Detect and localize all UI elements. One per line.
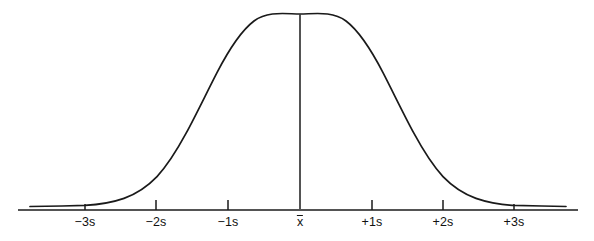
x-bar-glyph: x <box>297 215 303 229</box>
tick-label-mean-x-bar: x <box>297 215 303 229</box>
tick-label-plus-2s: +2s <box>432 216 453 229</box>
tick-label-plus-1s: +1s <box>361 216 382 229</box>
normal-curve-path <box>30 13 566 206</box>
bell-curve-canvas <box>0 0 594 241</box>
tick-label-minus-3s: −3s <box>74 216 95 229</box>
tick-label-plus-3s: +3s <box>503 216 524 229</box>
tick-label-minus-2s: −2s <box>145 216 166 229</box>
tick-label-minus-1s: −1s <box>217 216 238 229</box>
bell-curve-figure: −3s −2s −1s x +1s +2s +3s <box>0 0 594 241</box>
